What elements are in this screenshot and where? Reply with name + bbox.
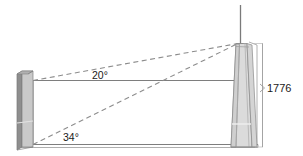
right-tower [231,5,257,147]
ground-plane [20,145,258,148]
left-building-front-face [22,71,33,147]
elevation-diagram-svg: 20° 34° 1776 [0,0,303,156]
geometry-diagram: 20° 34° 1776 [0,0,303,156]
height-dimension: 1776 [252,44,291,148]
sight-line-34-degrees [33,44,238,145]
left-building-side-face [17,71,22,150]
angle-label-34: 34° [63,131,79,143]
sight-line-34-group: 34° [33,44,238,145]
sight-line-20-group: 20° [33,44,238,82]
left-building [17,71,33,150]
height-label: 1776 [267,82,291,94]
sight-line-20-degrees [33,44,238,81]
tower-parapet [236,47,249,48]
angle-label-20: 20° [92,69,108,81]
